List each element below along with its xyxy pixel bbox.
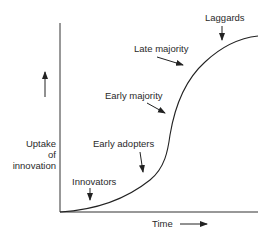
stage-label-laggards: Laggards [205,12,245,23]
early-adopters-arrow-icon [140,152,143,172]
stage-label-late-majority: Late majority [134,43,188,54]
y-axis-label-line-2: of [4,149,56,160]
early-majority-arrow-icon [147,103,165,113]
y-axis-label-line-1: Uptake [4,138,56,149]
stage-label-early-majority: Early majority [105,90,163,101]
late-majority-arrow-icon [157,57,183,65]
x-axis-label: Time [152,218,173,229]
y-axis-label-line-3: innovation [4,160,56,171]
y-axis-label: Uptake of innovation [4,138,56,171]
s-curve-diagram [0,0,278,238]
stage-label-innovators: Innovators [72,176,116,187]
stage-label-early-adopters: Early adopters [93,138,154,149]
